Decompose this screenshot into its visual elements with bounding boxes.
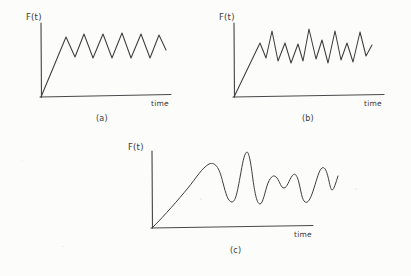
- plot-c-svg: [108, 138, 338, 272]
- plot-a-x-axis: [40, 95, 171, 98]
- paper-speck: [200, 198, 202, 200]
- paper-speck: [355, 188, 357, 190]
- plot-panel-a: F(t) time (a): [8, 4, 204, 136]
- plot-c-x-axis: [151, 226, 313, 229]
- plot-b-caption: (b): [302, 114, 314, 123]
- plot-c-caption: (c): [230, 246, 241, 255]
- plot-b-y-axis-label: F(t): [219, 12, 235, 22]
- plot-c-x-axis-label: time: [294, 230, 312, 239]
- plot-c-y-axis: [152, 151, 153, 228]
- plot-c-y-axis-label: F(t): [128, 142, 144, 152]
- paper-speck: [22, 160, 23, 161]
- plot-a-caption: (a): [96, 114, 108, 123]
- paper-speck: [380, 96, 381, 98]
- plot-b-y-axis: [234, 23, 235, 97]
- plot-a-x-axis-label: time: [151, 99, 169, 108]
- paper-speck: [62, 246, 64, 247]
- plot-a-curve: [41, 33, 166, 97]
- plot-b-curve: [234, 29, 372, 97]
- figure-sheet: F(t) time (a) F(t) time (b) F(t) time (c…: [0, 0, 411, 276]
- plot-b-x-axis: [233, 95, 384, 98]
- plot-panel-b: F(t) time (b): [208, 4, 404, 136]
- plot-b-x-axis-label: time: [364, 99, 382, 108]
- plot-a-y-axis-label: F(t): [26, 12, 42, 22]
- plot-panel-c: F(t) time (c): [108, 138, 338, 272]
- plot-c-curve: [152, 152, 338, 228]
- plot-a-y-axis: [41, 23, 42, 97]
